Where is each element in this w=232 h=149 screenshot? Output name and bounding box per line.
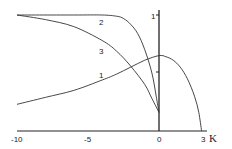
x-axis-label: K: [209, 132, 217, 144]
y-tick-label: 1: [151, 12, 156, 21]
x-tick-label: -5: [84, 135, 92, 144]
curve-1: [17, 55, 202, 131]
curve-label-1: 1: [99, 71, 104, 80]
chart: -10 -5 0 3 K 1 1 2 3: [0, 0, 232, 149]
curve-label-2: 2: [99, 18, 104, 27]
curve-label-3: 3: [99, 47, 104, 56]
axes: [17, 10, 207, 131]
x-tick-label: -10: [11, 135, 23, 144]
x-tick-label: 0: [157, 135, 162, 144]
x-tick-label: 3: [201, 135, 206, 144]
